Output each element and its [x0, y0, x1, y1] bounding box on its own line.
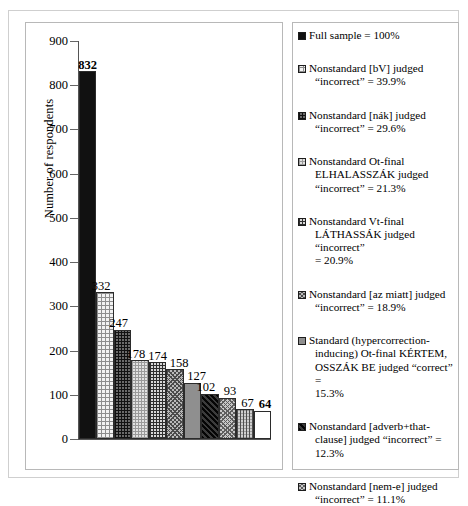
legend-swatch-icon — [298, 423, 306, 431]
legend-swatch-icon — [298, 337, 306, 345]
legend-label-line: Full sample = 100% — [309, 29, 400, 41]
bar-value-label: 102 — [196, 381, 215, 394]
chart-panel: Number of respondents 900800700600500400… — [25, 22, 283, 470]
legend-label-line: 15.3% — [309, 387, 453, 400]
legend-label-line: ELHALASSZÁK judged — [309, 168, 428, 181]
legend-label-line: “incorrect” = 18.9% — [309, 301, 445, 314]
bar-slot: 64 — [254, 41, 271, 439]
y-tick-mark-200 — [70, 351, 78, 352]
legend-label-line: Nonstandard [adverb+that- — [309, 420, 430, 432]
legend-label: Nonstandard Vt-finalLÁTHASSÁK judged “in… — [309, 215, 453, 268]
legend-label: Full sample = 100% — [309, 29, 400, 42]
y-tick-200: 200 — [28, 344, 68, 357]
y-tick-100: 100 — [28, 389, 68, 402]
legend-label-line: Standard (hypercorrection- — [309, 334, 430, 346]
legend-label: Standard (hypercorrection-inducing) Ot-f… — [309, 334, 453, 400]
bar-slot: 247 — [114, 41, 131, 439]
legend-swatch-icon — [298, 32, 306, 40]
legend-label-line: “incorrect” = 11.1% — [309, 493, 438, 506]
y-tick-600: 600 — [28, 167, 68, 180]
legend-panel: Full sample = 100%Nonstandard [bV] judge… — [292, 22, 459, 470]
legend-swatch-icon — [298, 158, 306, 166]
bar-slot: 102 — [201, 41, 218, 439]
legend-label: Nonstandard [nák] judged“incorrect” = 29… — [309, 109, 426, 135]
bar-value-label: 174 — [148, 350, 167, 363]
legend-item[interactable]: Nonstandard [nem-e] judged“incorrect” = … — [298, 480, 453, 506]
bar-value-label: 178 — [127, 348, 146, 361]
legend-item[interactable]: Nonstandard [bV] judged“incorrect” = 39.… — [298, 62, 453, 88]
y-tick-900: 900 — [28, 35, 68, 48]
legend-item[interactable]: Full sample = 100% — [298, 29, 453, 42]
bar-67[interactable]: 67 — [236, 409, 253, 439]
plot-area: 832332247178174158127102936764 — [79, 41, 271, 439]
legend-label-line: Nonstandard Vt-final — [309, 215, 404, 227]
bar-value-label: 67 — [241, 397, 254, 410]
legend-label: Nonstandard [az miatt] judged“incorrect”… — [309, 288, 445, 314]
legend-label-line: Nonstandard [nem-e] judged — [309, 480, 438, 492]
y-tick-700: 700 — [28, 123, 68, 136]
bar-slot: 93 — [219, 41, 236, 439]
legend-item[interactable]: Nonstandard [nák] judged“incorrect” = 29… — [298, 109, 453, 135]
bar-158[interactable]: 158 — [166, 369, 183, 439]
bar-64[interactable]: 64 — [254, 411, 271, 439]
legend-swatch-icon — [298, 483, 306, 491]
y-tick-mark-600 — [70, 174, 78, 175]
bar-178[interactable]: 178 — [131, 360, 148, 439]
legend-item[interactable]: Nonstandard [az miatt] judged“incorrect”… — [298, 288, 453, 314]
legend-label-line: LÁTHASSÁK judged “incorrect” — [309, 228, 453, 254]
legend-item[interactable]: Nonstandard Ot-finalELHALASSZÁK judged“i… — [298, 155, 453, 195]
bar-slot: 178 — [131, 41, 148, 439]
bar-332[interactable]: 332 — [96, 292, 113, 439]
bar-slot: 127 — [184, 41, 201, 439]
y-tick-mark-300 — [70, 306, 78, 307]
bar-value-label: 332 — [92, 280, 111, 293]
bar-value-label: 247 — [109, 317, 128, 330]
bar-102[interactable]: 102 — [201, 394, 218, 439]
legend-item[interactable]: Standard (hypercorrection-inducing) Ot-f… — [298, 334, 453, 400]
legend-label: Nonstandard [nem-e] judged“incorrect” = … — [309, 480, 438, 506]
legend-label-line: Nonstandard [bV] judged — [309, 62, 423, 74]
y-tick-500: 500 — [28, 212, 68, 225]
legend-label-line: inducing) Ot-final KÉRTEM, — [309, 347, 453, 360]
bar-slot: 332 — [96, 41, 113, 439]
legend-label: Nonstandard [bV] judged“incorrect” = 39.… — [309, 62, 423, 88]
legend-label-line: OSSZÁK BE judged “correct” = — [309, 361, 453, 387]
y-axis-tick-labels: 9008007006005004003002001000 — [26, 23, 68, 469]
y-tick-mark-800 — [70, 85, 78, 86]
bar-slot: 158 — [166, 41, 183, 439]
legend-swatch-icon — [298, 218, 306, 226]
legend-label-line: Nonstandard [az miatt] judged — [309, 288, 445, 300]
legend-label-line: “incorrect” = 39.9% — [309, 75, 423, 88]
legend-item[interactable]: Nonstandard Vt-finalLÁTHASSÁK judged “in… — [298, 215, 453, 268]
y-tick-0: 0 — [28, 433, 68, 446]
bar-174[interactable]: 174 — [149, 362, 166, 439]
bar-832[interactable]: 832 — [79, 71, 96, 439]
bar-value-label: 832 — [78, 59, 97, 72]
bar-value-label: 64 — [259, 398, 272, 411]
legend-label-line: “incorrect” = 21.3% — [309, 182, 428, 195]
y-tick-mark-500 — [70, 218, 78, 219]
y-tick-mark-0 — [70, 439, 78, 440]
legend-item[interactable]: Nonstandard [adverb+that-clause] judged … — [298, 420, 453, 460]
legend-label-line: “incorrect” = 29.6% — [309, 122, 426, 135]
y-tick-300: 300 — [28, 300, 68, 313]
legend-label: Nonstandard [adverb+that-clause] judged … — [309, 420, 442, 460]
legend-label-line: 12.3% — [309, 447, 442, 460]
legend-label-line: Nonstandard [nák] judged — [309, 109, 426, 121]
y-tick-mark-400 — [70, 262, 78, 263]
legend-label-line: = 20.9% — [309, 254, 453, 267]
bar-value-label: 93 — [224, 385, 237, 398]
y-tick-mark-100 — [70, 395, 78, 396]
legend-swatch-icon — [298, 112, 306, 120]
x-axis-line — [78, 439, 271, 440]
y-tick-800: 800 — [28, 79, 68, 92]
y-tick-mark-700 — [70, 129, 78, 130]
legend-label: Nonstandard Ot-finalELHALASSZÁK judged“i… — [309, 155, 428, 195]
bar-slot: 174 — [149, 41, 166, 439]
legend-swatch-icon — [298, 291, 306, 299]
legend-label-line: Nonstandard Ot-final — [309, 155, 404, 167]
bar-slot: 832 — [79, 41, 96, 439]
y-tick-mark-900 — [70, 41, 78, 42]
bar-93[interactable]: 93 — [219, 398, 236, 439]
bar-slot: 67 — [236, 41, 253, 439]
